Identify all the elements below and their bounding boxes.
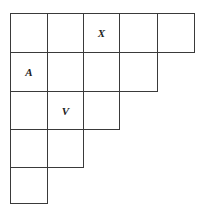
grid-cell	[119, 52, 158, 92]
grid-cell	[10, 13, 48, 53]
grid-cell	[47, 13, 84, 53]
grid-cell: A	[10, 52, 48, 92]
grid-cell	[10, 129, 48, 168]
grid-cell	[83, 52, 120, 92]
grid-cell: V	[47, 91, 84, 130]
grid-cell	[157, 13, 195, 53]
grid-cell: X	[83, 13, 120, 53]
grid-cell	[47, 52, 84, 92]
grid-cell	[10, 167, 48, 204]
staircase-grid: XAV	[0, 0, 203, 212]
grid-cell	[119, 13, 158, 53]
grid-cell	[83, 91, 120, 130]
cell-label: X	[98, 27, 105, 39]
grid-cell	[10, 91, 48, 130]
cell-label: A	[25, 66, 32, 78]
grid-cell	[47, 129, 84, 168]
cell-label: V	[62, 105, 69, 117]
